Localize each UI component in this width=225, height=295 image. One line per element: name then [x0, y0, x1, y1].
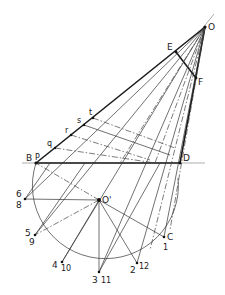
radius-to-2-12	[99, 200, 137, 263]
label-1: 1	[163, 243, 168, 252]
point-s	[83, 124, 85, 126]
label-9: 9	[29, 237, 35, 247]
label-p: P	[35, 153, 40, 162]
radius-to-6-8	[25, 199, 99, 200]
ray-o-to-c	[164, 27, 205, 237]
label-s: s	[77, 116, 81, 125]
label-12: 12	[139, 262, 149, 271]
point-2-12	[136, 262, 139, 265]
label-o: O	[208, 22, 215, 32]
point-c-1	[163, 236, 166, 239]
radius-to-c	[99, 200, 164, 237]
point-e	[175, 51, 178, 54]
point-6-8	[24, 198, 27, 201]
diagram-canvas: O E F B P D q r s t O' C 1 6 8 5 9 4 10 …	[0, 0, 225, 295]
radius-to-4-10	[62, 200, 99, 262]
point-4-10	[61, 261, 64, 264]
label-8: 8	[16, 200, 22, 210]
point-oprime	[97, 198, 101, 202]
label-oprime: O'	[102, 195, 112, 205]
transversal-r	[71, 135, 150, 160]
chord-6-to-p	[25, 163, 50, 199]
label-3: 3	[92, 275, 98, 285]
label-6: 6	[16, 189, 22, 199]
label-e: E	[167, 42, 173, 52]
label-11: 11	[101, 276, 111, 285]
segment-e-f	[176, 52, 196, 78]
label-2: 2	[130, 265, 136, 275]
ray-o-to-3	[99, 27, 205, 272]
label-c: C	[167, 232, 173, 242]
chord-3-up	[99, 163, 160, 272]
label-t: t	[89, 108, 92, 117]
label-b: B	[26, 153, 32, 163]
point-d	[179, 162, 182, 165]
point-f	[195, 77, 198, 80]
label-q: q	[47, 139, 52, 148]
label-r: r	[65, 126, 69, 135]
point-5-9	[34, 234, 37, 237]
transversal-q	[55, 148, 155, 163]
label-10: 10	[61, 264, 71, 273]
transversal-s	[84, 125, 170, 155]
point-o	[203, 25, 206, 28]
point-3-11	[98, 271, 101, 274]
label-d: D	[183, 153, 190, 163]
label-4: 4	[52, 260, 58, 270]
point-r	[70, 134, 72, 136]
point-t	[92, 117, 94, 119]
label-f: F	[198, 77, 203, 87]
ray-o-to-6	[25, 27, 205, 199]
point-q	[54, 147, 56, 149]
